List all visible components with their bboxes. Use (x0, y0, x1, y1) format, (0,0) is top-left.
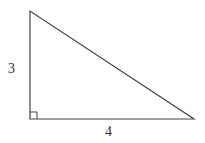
triangle-diagram: 3 4 (0, 0, 205, 143)
horizontal-leg-label: 4 (105, 124, 112, 139)
right-angle-marker (30, 112, 37, 119)
right-triangle (30, 11, 194, 119)
vertical-leg-label: 3 (8, 61, 15, 76)
